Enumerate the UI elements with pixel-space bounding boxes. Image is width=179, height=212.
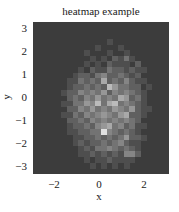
heatmap-cell <box>124 163 130 169</box>
y-tick-label: 2 <box>7 45 27 57</box>
heatmap-plot-area <box>33 22 169 174</box>
heatmap-cell <box>112 163 118 169</box>
y-tick-label: −2 <box>7 137 27 149</box>
heatmap-cell <box>141 123 147 129</box>
y-tick-label: 3 <box>7 22 27 34</box>
heatmap-cell <box>141 112 147 118</box>
x-axis-label: x <box>93 190 105 202</box>
heatmap-cell <box>90 163 96 169</box>
heatmap-cell <box>101 163 107 169</box>
heatmap-cell <box>95 45 101 51</box>
y-tick-label: −3 <box>7 160 27 172</box>
y-axis-label: y <box>0 94 12 100</box>
heatmap-cell <box>146 84 152 90</box>
y-tick-label: 1 <box>7 68 27 80</box>
chart-title: heatmap example <box>33 4 169 18</box>
heatmap-cell <box>135 151 141 157</box>
x-tick-label: 0 <box>89 178 109 190</box>
x-tick-label: −2 <box>44 178 64 190</box>
heatmap-cell <box>141 67 147 73</box>
heatmap-cell <box>129 157 135 163</box>
heatmap-cell <box>107 39 113 45</box>
heatmap-cell <box>141 135 147 141</box>
heatmap-cell <box>146 106 152 112</box>
x-tick-label: 2 <box>134 178 154 190</box>
y-tick-label: −1 <box>7 114 27 126</box>
